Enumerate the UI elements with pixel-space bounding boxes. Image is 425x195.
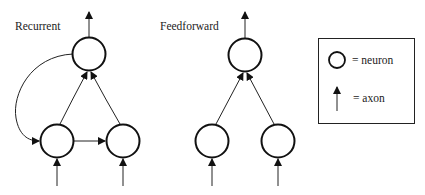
legend-box — [319, 39, 415, 124]
legend: = neuron = axon — [319, 39, 415, 124]
legend-neuron-icon — [329, 52, 345, 68]
feedforward-right-to-top-connection — [247, 73, 274, 124]
legend-neuron-label: = neuron — [352, 54, 394, 66]
feedforward-right-neuron — [262, 125, 295, 158]
recurrent-left-to-top-connection — [60, 72, 87, 124]
feedforward-top-neuron — [229, 39, 262, 72]
recurrent-network: Recurrent — [15, 12, 140, 186]
feedforward-left-neuron — [196, 125, 229, 158]
legend-axon-label: = axon — [353, 92, 385, 104]
recurrent-label: Recurrent — [15, 20, 61, 32]
neural-network-diagram: Recurrent Feedforward = neuron — [0, 0, 425, 195]
feedforward-left-to-top-connection — [216, 73, 243, 124]
feedforward-label: Feedforward — [160, 20, 219, 32]
recurrent-top-neuron — [73, 38, 106, 71]
recurrent-left-neuron — [41, 125, 74, 158]
recurrent-right-to-top-connection — [91, 72, 120, 124]
recurrent-right-neuron — [107, 125, 140, 158]
feedforward-network: Feedforward — [160, 12, 295, 186]
